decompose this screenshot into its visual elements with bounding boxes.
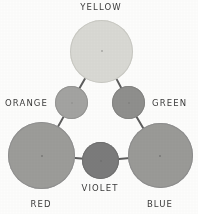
color-swatch-red [8,122,75,189]
color-swatch-violet [82,142,119,179]
color-swatch-blue [128,123,193,188]
label-violet: VIOLET [82,184,119,193]
label-orange: ORANGE [5,99,48,108]
label-green: GREEN [152,99,187,108]
color-swatch-green [112,86,145,119]
color-circle-diagram: YELLOWORANGEGREENREDVIOLETBLUE [0,0,198,214]
label-yellow: YELLOW [80,3,121,12]
label-blue: BLUE [147,200,173,209]
label-red: RED [30,200,51,209]
color-swatch-yellow [70,20,133,83]
color-swatch-orange [55,86,88,119]
